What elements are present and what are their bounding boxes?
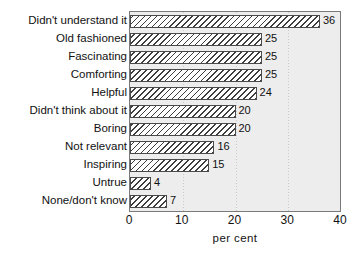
- category-axis-labels: Didn't understand itOld fashionedFascina…: [0, 11, 129, 212]
- x-tick-label-30: 30: [267, 213, 307, 227]
- bar-value-label: 16: [217, 139, 229, 154]
- category-label: Boring: [1, 120, 129, 136]
- category-label: Didn't understand it: [1, 12, 129, 28]
- category-label: Comforting: [1, 66, 129, 82]
- bar-value-label: 15: [212, 157, 224, 172]
- bar-chart: Didn't understand itOld fashionedFascina…: [0, 0, 361, 256]
- bar-value-label: 25: [265, 49, 277, 64]
- bar-value-label: 7: [170, 193, 176, 208]
- bar-value-label: 20: [239, 103, 251, 118]
- bar-value-label: 25: [265, 67, 277, 82]
- bar-value-label: 36: [323, 13, 335, 28]
- category-label: Fascinating: [1, 48, 129, 64]
- bar-value-label: 24: [260, 85, 272, 100]
- bar-value-label: 20: [239, 121, 251, 136]
- category-label: None/don't know: [1, 192, 129, 208]
- category-label: Helpful: [1, 84, 129, 100]
- bar-value-labels: 36252525242020161547: [129, 11, 361, 212]
- category-label: Didn't think about it: [1, 102, 129, 118]
- bar-value-label: 4: [154, 175, 160, 190]
- x-tick-label-40: 40: [320, 213, 360, 227]
- x-tick-label-20: 20: [215, 213, 255, 227]
- x-tick-label-0: 0: [109, 213, 149, 227]
- category-label: Not relevant: [1, 138, 129, 154]
- category-label: Old fashioned: [1, 30, 129, 46]
- bar-value-label: 25: [265, 31, 277, 46]
- x-axis-tick-labels: 010203040: [0, 213, 361, 229]
- category-label: Untrue: [1, 174, 129, 190]
- x-tick-label-10: 10: [162, 213, 202, 227]
- x-axis-title: per cent: [129, 232, 341, 244]
- category-label: Inspiring: [1, 156, 129, 172]
